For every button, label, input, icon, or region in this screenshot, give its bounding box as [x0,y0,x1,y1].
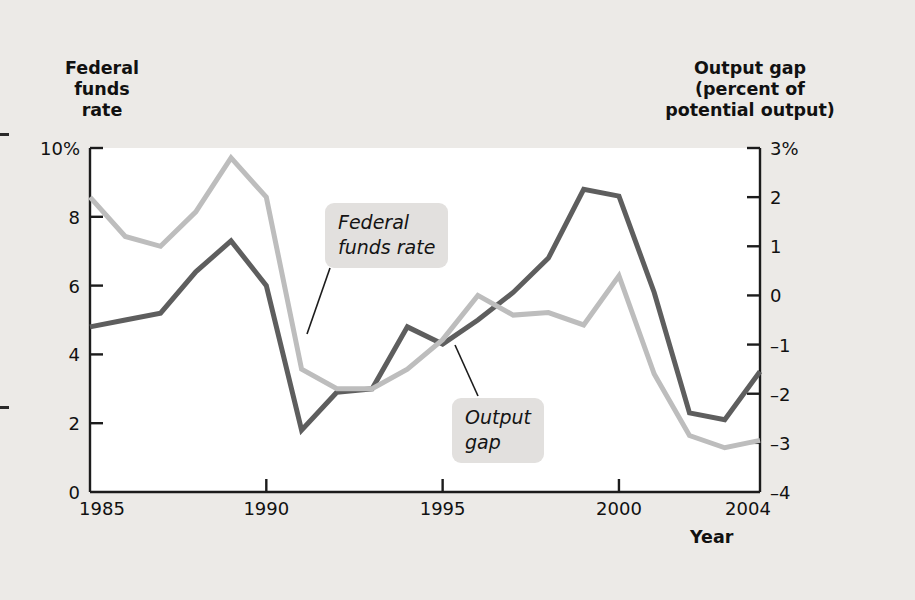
left-tick-label: 6 [0,275,80,296]
right-tick-label: 2 [770,187,781,208]
leader-line-output-gap [455,345,478,396]
left-tick-label: 8 [0,206,80,227]
x-tick-label: 2000 [596,498,642,519]
x-tick-label: 1990 [243,498,289,519]
figure-container: Federal funds rate Output gap (percent o… [0,0,915,600]
right-tick-label: –4 [770,482,790,503]
x-tick-label: 2004 [725,498,771,519]
right-tick-label: –3 [770,432,790,453]
callout-output-gap: Output gap [452,398,544,463]
left-tick-label: 0 [0,482,80,503]
leader-line-federal-funds-rate [307,268,330,334]
x-tick-label: 1995 [420,498,466,519]
callout-federal-funds-rate: Federal funds rate [325,203,448,268]
right-tick-label: –2 [770,383,790,404]
right-tick-label: 0 [770,285,781,306]
axes-group [90,148,760,492]
series-group [90,158,760,448]
left-tick-label: 2 [0,413,80,434]
right-tick-label: 3% [770,138,799,159]
x-tick-label: 1985 [79,498,125,519]
left-tick-label: 4 [0,344,80,365]
right-tick-label: 1 [770,236,781,257]
x-axis-name: Year [690,527,733,547]
left-tick-label: 10% [0,138,80,159]
right-tick-label: –1 [770,334,790,355]
